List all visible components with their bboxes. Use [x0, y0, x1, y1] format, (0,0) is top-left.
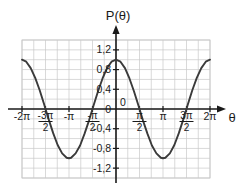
chart-figure: -2π-3π2-π-π20π2π3π22π 1,20,80,40-0,4-0,8… — [0, 0, 243, 186]
svg-text:3π: 3π — [180, 110, 193, 121]
svg-text:-3π: -3π — [38, 110, 54, 121]
y-tick-label: -0,4 — [93, 122, 111, 134]
svg-text:2: 2 — [137, 122, 143, 133]
x-tick-label: 0 — [120, 96, 126, 108]
svg-text:2: 2 — [184, 122, 190, 133]
x-axis-title: θ — [228, 110, 235, 125]
x-tick-label: -π — [64, 110, 75, 122]
y-tick-label: 1,2 — [96, 43, 111, 55]
y-tick-label: -0,8 — [93, 142, 111, 154]
y-tick-label: -1,2 — [93, 162, 111, 174]
y-tick-label: 0,4 — [96, 83, 111, 95]
cosine-plot: -2π-3π2-π-π20π2π3π22π 1,20,80,40-0,4-0,8… — [0, 0, 243, 186]
x-tick-label: -2π — [14, 110, 31, 122]
x-tick-label: π — [159, 110, 166, 122]
y-tick-label: 0 — [105, 103, 111, 115]
y-tick-label: 0,8 — [96, 63, 111, 75]
x-tick-label: 2π — [203, 110, 216, 122]
svg-text:-π: -π — [87, 110, 97, 121]
svg-text:2: 2 — [43, 122, 49, 133]
svg-text:π: π — [136, 110, 143, 121]
y-axis-title: P(θ) — [106, 8, 131, 23]
